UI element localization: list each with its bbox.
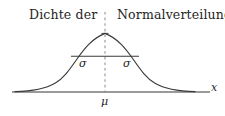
figure-caption-right: Normalverteilung	[117, 9, 225, 22]
x-axis-label: x	[211, 82, 217, 93]
sigma-label-right: σ	[123, 58, 131, 69]
figure-caption-left: Dichte der	[29, 9, 97, 22]
normal-distribution-figure: Dichte der Normalverteilung σ σ μ x	[0, 0, 225, 116]
sigma-label-left: σ	[79, 58, 87, 69]
mu-label: μ	[101, 96, 108, 107]
